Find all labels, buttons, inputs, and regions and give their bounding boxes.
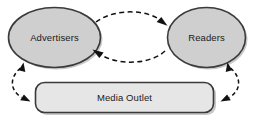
readers-label: Readers bbox=[188, 32, 225, 43]
advertisers-media-outlet-arrowhead-bottom bbox=[20, 95, 30, 102]
readers-media-outlet-arrowhead-bottom bbox=[221, 95, 231, 102]
advertisers-label: Advertisers bbox=[30, 32, 79, 43]
media-outlet-label: Media Outlet bbox=[97, 92, 152, 103]
connector-readers-to-advertisers bbox=[93, 50, 166, 63]
connector-advertisers-to-readers bbox=[96, 12, 168, 26]
node-media-outlet[interactable]: Media Outlet bbox=[36, 83, 217, 116]
advertisers-media-outlet-path bbox=[12, 68, 21, 98]
connector-advertisers-media-outlet bbox=[12, 63, 30, 102]
node-advertisers[interactable]: Advertisers bbox=[9, 8, 103, 70]
diagram-canvas: Media Outlet Advertisers Readers bbox=[0, 0, 253, 123]
node-readers[interactable]: Readers bbox=[168, 8, 248, 70]
connector-readers-media-outlet bbox=[221, 63, 239, 102]
diagram-svg: Media Outlet Advertisers Readers bbox=[0, 0, 253, 123]
readers-media-outlet-path bbox=[230, 68, 239, 98]
readers-to-advertisers-path bbox=[98, 51, 165, 62]
advertisers-to-readers-path bbox=[96, 12, 163, 22]
advertisers-to-readers-arrowhead bbox=[157, 17, 168, 26]
advertisers-media-outlet-arrowhead-top bbox=[19, 63, 26, 73]
